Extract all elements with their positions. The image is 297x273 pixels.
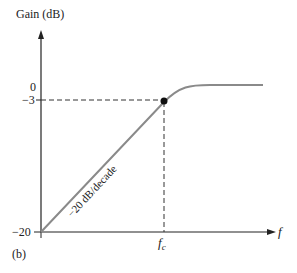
y-axis-label: Gain (dB): [16, 7, 64, 21]
x-axis-label: f: [278, 224, 284, 239]
x-tick-label-fc: fc: [158, 235, 166, 252]
y-tick-label-0: 0: [30, 80, 36, 94]
corner-point: [161, 98, 168, 105]
bode-gain-chart: Gain (dB) 0 −3 −20 f fc −20 dB/decade (b…: [0, 0, 297, 273]
x-axis-arrow-icon: [267, 229, 276, 235]
y-axis-arrow-icon: [38, 30, 44, 39]
panel-label: (b): [12, 247, 26, 261]
chart-canvas: Gain (dB) 0 −3 −20 f fc −20 dB/decade (b…: [0, 0, 297, 273]
y-tick-label-minus20: −20: [12, 225, 31, 239]
slope-annotation: −20 dB/decade: [65, 163, 119, 220]
y-tick-label-minus3: −3: [22, 93, 35, 107]
